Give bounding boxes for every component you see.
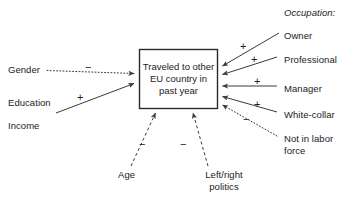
label-white-collar: White-collar <box>284 109 335 121</box>
edge-left-right-politics <box>193 113 208 166</box>
sign-owner: + <box>240 41 246 52</box>
sign-white-collar: + <box>254 99 260 110</box>
label-owner: Owner <box>284 30 312 42</box>
edge-education <box>56 84 134 114</box>
label-left-right-politics-line2: politics <box>209 181 238 192</box>
label-not-in-labor-force-line1: Not in labor <box>284 133 333 144</box>
sign-left-right-politics: − <box>180 139 186 150</box>
outcome-box-label: Traveled to other EU country in past yea… <box>140 50 217 108</box>
label-manager: Manager <box>284 83 322 95</box>
sign-gender: − <box>85 62 91 73</box>
diagram-canvas: Traveled to other EU country in past yea… <box>0 0 353 206</box>
sign-not-in-labor-force: − <box>243 114 249 125</box>
label-gender: Gender <box>8 64 40 76</box>
label-income: Income <box>8 120 39 132</box>
label-education: Education <box>8 97 51 109</box>
sign-age: − <box>139 139 145 150</box>
sign-education: + <box>77 92 83 103</box>
label-professional: Professional <box>284 54 337 66</box>
occupation-heading: Occupation: <box>284 7 335 19</box>
edge-professional <box>223 57 278 75</box>
cropped-caption <box>0 200 353 206</box>
outcome-box-text: Traveled to other EU country in past yea… <box>140 61 217 98</box>
label-not-in-labor-force: Not in labor force <box>284 133 350 156</box>
label-left-right-politics-line1: Left/right <box>205 169 242 180</box>
label-not-in-labor-force-line2: force <box>284 145 305 156</box>
label-left-right-politics: Left/right politics <box>198 169 250 192</box>
edge-white-collar <box>223 97 278 113</box>
sign-professional: + <box>251 54 257 65</box>
label-age: Age <box>118 169 135 181</box>
sign-manager: + <box>254 76 260 87</box>
